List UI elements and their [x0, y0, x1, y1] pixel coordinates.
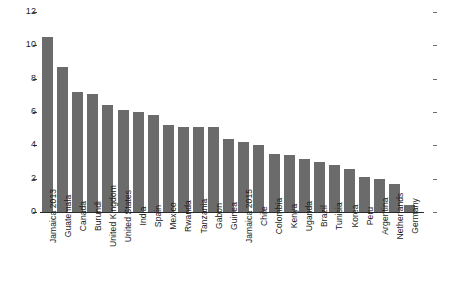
x-tick-label: Mexico [163, 214, 174, 290]
bar [133, 112, 144, 212]
x-tick-label: Gabon [208, 214, 219, 290]
x-tick-label: Tunisia [329, 214, 340, 290]
x-tick-label-text: Germany [410, 198, 421, 234]
x-tick-label: Chile [253, 214, 264, 290]
y-tick-label: 4 [14, 140, 36, 149]
x-tick-label: Rwanda [178, 214, 189, 290]
bar [163, 125, 174, 212]
y-tick-label: 6 [14, 107, 36, 116]
x-tick-label: Germany [404, 214, 415, 290]
y-tick-label: 10 [14, 40, 36, 49]
x-tick-label: Argentina [374, 214, 385, 290]
x-axis-labels: Jamaica 2013GuatemalaCanadaBurundiUnited… [40, 214, 432, 296]
bar [253, 145, 264, 212]
x-tick-label: Brazil [314, 214, 325, 290]
bars-group [40, 12, 422, 212]
x-tick-label: Guinea [223, 214, 234, 290]
bar [148, 115, 159, 212]
x-tick-label: Jamaica 2013 [42, 214, 53, 290]
y-tick-label: 2 [14, 174, 36, 183]
x-tick-label: Korea [344, 214, 355, 290]
bar-chart: 024681012 Jamaica 2013GuatemalaCanadaBur… [0, 0, 452, 296]
bar [87, 94, 98, 212]
y-tick-mark-right [433, 112, 437, 113]
x-tick-label: Canada [72, 214, 83, 290]
x-tick-label: Netherlands [389, 214, 400, 290]
x-tick-label: Kenya [284, 214, 295, 290]
x-tick-label: Uganda [299, 214, 310, 290]
y-tick-label: 0 [14, 207, 36, 216]
y-tick-mark-right [433, 79, 437, 80]
x-tick-label: Spain [148, 214, 159, 290]
x-tick-label: Jamaica 2015 [238, 214, 249, 290]
x-tick-label: United Kingdom [102, 214, 113, 290]
x-tick-label: United States [118, 214, 129, 290]
y-tick-mark-right [433, 145, 437, 146]
x-tick-label: Colombia [269, 214, 280, 290]
x-tick-label: Tanzania [193, 214, 204, 290]
x-tick-label: India [133, 214, 144, 290]
bar [42, 37, 53, 212]
y-tick-label: 12 [14, 7, 36, 16]
y-tick-mark-right [433, 45, 437, 46]
y-tick-mark-right [433, 179, 437, 180]
x-tick-label: Peru [359, 214, 370, 290]
x-tick-label: Guatemala [57, 214, 68, 290]
y-tick-mark-right [433, 212, 437, 213]
x-tick-label: Burundi [87, 214, 98, 290]
y-axis: 024681012 [0, 0, 36, 296]
y-tick-mark-right [433, 12, 437, 13]
y-tick-label: 8 [14, 74, 36, 83]
